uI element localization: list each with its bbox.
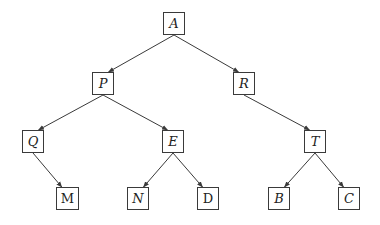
node-b: B	[268, 187, 290, 210]
node-q: Q	[22, 130, 44, 153]
node-d: D	[197, 187, 219, 210]
edge-group	[33, 35, 344, 187]
node-label: E	[168, 134, 178, 149]
node-label: T	[311, 134, 320, 149]
node-t: T	[304, 130, 326, 153]
node-label: C	[344, 191, 354, 206]
edge-e-d	[173, 153, 203, 187]
node-label: A	[169, 16, 178, 31]
edge-t-c	[315, 153, 344, 187]
edge-a-p	[109, 35, 175, 72]
edge-e-n	[144, 153, 174, 187]
node-e: E	[162, 130, 184, 153]
node-label: B	[274, 191, 284, 206]
edge-a-r	[174, 35, 239, 72]
tree-diagram: APRQETMNDBC	[0, 0, 380, 225]
edge-t-b	[285, 153, 316, 187]
edge-p-e	[103, 95, 168, 130]
node-label: D	[203, 191, 213, 206]
edge-r-t	[244, 95, 310, 130]
node-label: M	[61, 191, 74, 206]
node-r: R	[233, 72, 255, 95]
node-c: C	[338, 187, 360, 210]
node-n: N	[127, 187, 149, 210]
edge-q-m	[33, 153, 62, 187]
edge-p-q	[39, 95, 104, 130]
node-m: M	[56, 187, 79, 210]
node-p: P	[92, 72, 114, 95]
node-label: Q	[28, 134, 39, 149]
node-label: N	[132, 191, 143, 206]
node-label: P	[99, 76, 108, 91]
node-a: A	[163, 12, 185, 35]
node-label: R	[239, 76, 249, 91]
